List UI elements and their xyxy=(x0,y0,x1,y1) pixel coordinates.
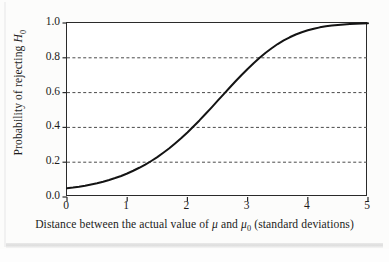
x-tick-label: 1 xyxy=(114,200,138,212)
y-tick-label: 0.6 xyxy=(30,86,60,98)
x-axis-tick-labels: 012345 xyxy=(66,200,367,216)
y-axis-title: Probability of rejecting H0 xyxy=(12,3,27,183)
y-axis-title-subscript: 0 xyxy=(19,30,28,34)
plot-canvas xyxy=(67,23,368,197)
x-axis-title-mid: and xyxy=(218,218,241,231)
page-left-edge xyxy=(4,2,6,247)
x-axis-title: Distance between the actual value of μ a… xyxy=(0,218,389,233)
power-curve-line xyxy=(67,23,368,188)
y-tick-label: 0.2 xyxy=(30,155,60,167)
x-tick-label: 3 xyxy=(235,200,259,212)
x-tick-label: 4 xyxy=(295,200,319,212)
x-tick-label: 2 xyxy=(174,200,198,212)
plot-frame xyxy=(66,22,367,196)
x-tick-label: 0 xyxy=(54,200,78,212)
y-axis-title-text: Probability of rejecting xyxy=(12,43,25,156)
y-tick-label: 0.4 xyxy=(30,120,60,132)
x-tick-label: 5 xyxy=(355,200,379,212)
figure-container: 0.00.20.40.60.81.0 012345 Probability of… xyxy=(0,0,389,262)
y-axis-tick-labels: 0.00.20.40.60.81.0 xyxy=(26,22,60,196)
x-axis-title-pre: Distance between the actual value of xyxy=(35,218,212,231)
y-tick-label: 1.0 xyxy=(30,16,60,28)
x-axis-title-post: (standard deviations) xyxy=(251,218,354,231)
y-axis-title-symbol: H xyxy=(12,34,25,42)
y-tick-label: 0.8 xyxy=(30,51,60,63)
page-bottom-shadow xyxy=(6,243,383,248)
gridlines xyxy=(67,58,368,162)
